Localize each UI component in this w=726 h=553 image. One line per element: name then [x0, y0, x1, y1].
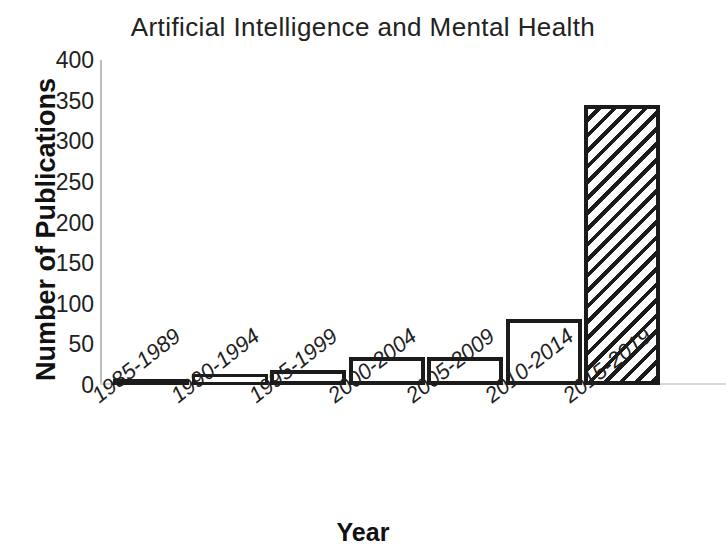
y-tick-label: 50: [34, 331, 94, 358]
y-tick-label: 350: [34, 87, 94, 114]
y-tick-label: 400: [34, 47, 94, 74]
y-tick-label: 250: [34, 168, 94, 195]
chart-title: Artificial Intelligence and Mental Healt…: [0, 12, 726, 43]
y-axis-spine: [100, 60, 102, 385]
y-tick-label: 100: [34, 290, 94, 317]
x-axis-title: Year: [0, 518, 726, 547]
x-axis-tick-labels: 1985-19891990-19941995-19992000-20042005…: [100, 388, 726, 508]
y-tick-label: 300: [34, 128, 94, 155]
y-tick-label: 150: [34, 250, 94, 277]
y-tick-label: 0: [34, 372, 94, 399]
y-tick-label: 200: [34, 209, 94, 236]
bar-chart-figure: Artificial Intelligence and Mental Healt…: [0, 0, 726, 553]
y-axis-tick-labels: 050100150200250300350400: [34, 0, 94, 553]
